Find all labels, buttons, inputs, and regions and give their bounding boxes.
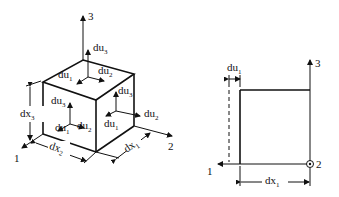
du2-arrow-icon	[88, 77, 104, 81]
dimension-dx3: dx3	[18, 81, 44, 140]
du1-arrow-icon	[106, 111, 116, 116]
top-du2-label: du2	[98, 64, 113, 79]
top-face-vectors: du3 du1 du2	[58, 41, 113, 84]
side-face-vectors: du3 du1 du2	[104, 84, 159, 132]
side-du3-label: du3	[118, 84, 133, 99]
planar-view: 3 1 2 du1 dx1	[207, 57, 322, 190]
diagram-canvas: 3 1 2 du3 du1 du2 du3 du1 du2 du3 du1 du…	[0, 0, 339, 197]
front-du1-label: du1	[55, 121, 70, 136]
top-du3-label: du3	[93, 41, 108, 56]
axis-1-label: 1	[14, 152, 20, 164]
axis-2-label: 2	[168, 140, 174, 152]
axis-1-arrow-icon	[22, 134, 43, 148]
front-du2-label: du2	[77, 119, 92, 134]
side-du2-label: du2	[144, 107, 159, 122]
dimension-dx2: dx2	[36, 139, 96, 163]
du1-arrow-icon	[77, 77, 88, 84]
front-face-vectors: du3 du1 du2	[51, 94, 92, 136]
top-du1-label: du1	[58, 68, 73, 83]
axis-2-arrow-icon	[134, 126, 172, 136]
right-axis-3-label: 3	[315, 57, 321, 69]
axis-1: 1	[14, 134, 43, 164]
side-du1-label: du1	[104, 117, 119, 132]
axis-3-label: 3	[88, 10, 94, 22]
right-du1-label: du1	[227, 61, 242, 76]
du2-arrow-icon	[116, 111, 140, 116]
right-axis-1-label: 1	[207, 165, 213, 177]
front-du3-label: du3	[51, 94, 66, 109]
right-axis-2-label: 2	[316, 158, 322, 170]
